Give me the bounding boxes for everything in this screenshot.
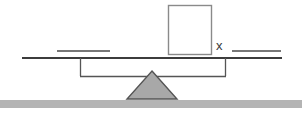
diagram-canvas: x bbox=[0, 0, 302, 113]
unknown-box-label: x bbox=[216, 38, 223, 53]
balance-scale-diagram: x bbox=[0, 0, 302, 113]
ground-bar bbox=[0, 100, 302, 108]
fulcrum-triangle bbox=[127, 71, 177, 99]
unknown-quantity-box bbox=[169, 6, 212, 55]
